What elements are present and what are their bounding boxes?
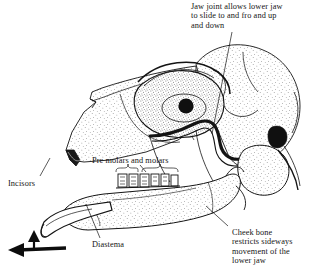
leader-line-incisors <box>40 158 50 176</box>
jugal-process <box>196 130 216 186</box>
label-pre-molars-and-molars: Pre molars and molars <box>92 156 169 165</box>
label-incisors: Incisors <box>8 179 35 188</box>
arrow-shaft-horizontal <box>18 248 66 250</box>
tooth <box>118 174 127 187</box>
skull-diagram-figure: Jaw joint allows lower jaw to slide to a… <box>0 0 322 277</box>
optic-foramen <box>178 98 193 113</box>
tooth <box>171 175 178 186</box>
auditory-meatus <box>268 126 287 148</box>
label-cheek-bone: Cheek bone restricts sideways movement o… <box>232 228 320 266</box>
tooth <box>129 174 138 187</box>
tooth <box>161 174 169 186</box>
tooth <box>151 174 159 186</box>
arrow-head-left <box>8 243 24 257</box>
label-jaw-joint: Jaw joint allows lower jaw to slide to a… <box>191 2 319 30</box>
jaw-movement-arrow <box>8 230 66 257</box>
upper-cheek-teeth-row <box>116 174 180 188</box>
tooth <box>140 174 149 187</box>
auditory-bulla <box>238 145 289 195</box>
label-diastema: Diastema <box>92 240 124 249</box>
arrow-head-up <box>28 230 40 242</box>
